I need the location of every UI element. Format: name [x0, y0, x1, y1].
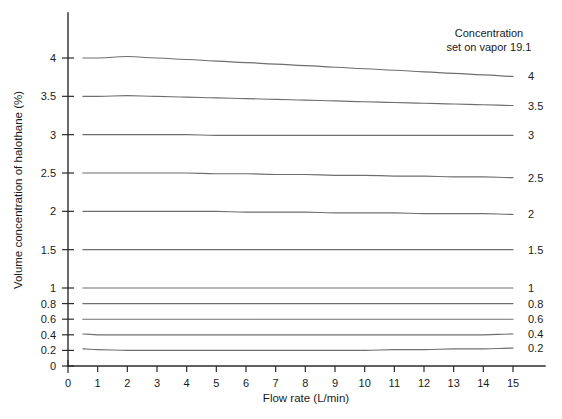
curve-label-0.2: 0.2 [528, 342, 543, 354]
curve-label-1.5: 1.5 [528, 244, 543, 256]
curve-3.5 [83, 96, 513, 106]
curve-3 [83, 135, 513, 136]
x-tick-label-3: 3 [154, 377, 160, 389]
x-tick-label-7: 7 [273, 377, 279, 389]
curve-2.5 [83, 173, 513, 178]
x-tick-label-1: 1 [95, 377, 101, 389]
y-tick-label-0.2: 0.2 [41, 344, 56, 356]
x-tick-label-12: 12 [418, 377, 430, 389]
curve-end-labels: 43.532.521.510.80.60.40.2 [528, 70, 543, 354]
y-tick-label-2.5: 2.5 [41, 167, 56, 179]
y-tick-label-4: 4 [50, 52, 56, 64]
x-tick-label-0: 0 [65, 377, 71, 389]
x-tick-label-13: 13 [448, 377, 460, 389]
y-axis-title: Volume concentration of halothane (%) [12, 91, 24, 289]
y-tick-label-3: 3 [50, 129, 56, 141]
y-tick-label-1: 1 [50, 282, 56, 294]
y-tick-label-0.8: 0.8 [41, 298, 56, 310]
concentration-note-line2: set on vapor 19.1 [446, 41, 531, 53]
x-axis-ticks: 0123456789101112131415 [65, 360, 519, 389]
x-tick-label-9: 9 [332, 377, 338, 389]
x-tick-label-8: 8 [302, 377, 308, 389]
x-tick-label-14: 14 [477, 377, 489, 389]
y-tick-label-0: 0 [50, 360, 56, 372]
curve-label-3.5: 3.5 [528, 100, 543, 112]
curve-label-3: 3 [528, 129, 534, 141]
curve-label-1: 1 [528, 282, 534, 294]
x-tick-label-15: 15 [507, 377, 519, 389]
curve-label-0.8: 0.8 [528, 298, 543, 310]
x-tick-label-4: 4 [184, 377, 190, 389]
halothane-concentration-chart: 00.20.40.60.811.522.533.54 0123456789101… [0, 0, 562, 419]
curve-2 [83, 211, 513, 214]
y-tick-label-2: 2 [50, 205, 56, 217]
x-tick-label-2: 2 [124, 377, 130, 389]
x-axis-title: Flow rate (L/min) [263, 392, 349, 404]
x-tick-label-10: 10 [359, 377, 371, 389]
x-tick-label-6: 6 [243, 377, 249, 389]
y-tick-label-0.4: 0.4 [41, 329, 56, 341]
y-tick-label-1.5: 1.5 [41, 244, 56, 256]
curve-label-4: 4 [528, 70, 534, 82]
x-tick-label-5: 5 [213, 377, 219, 389]
curve-label-2.5: 2.5 [528, 172, 543, 184]
curve-0.4 [83, 334, 513, 335]
y-tick-label-3.5: 3.5 [41, 90, 56, 102]
curve-4 [83, 56, 513, 76]
concentration-note-line1: Concentration [455, 27, 524, 39]
curve-label-0.6: 0.6 [528, 313, 543, 325]
curves-group [83, 56, 513, 350]
y-axis-ticks: 00.20.40.60.811.522.533.54 [41, 52, 74, 372]
curve-label-0.4: 0.4 [528, 328, 543, 340]
y-tick-label-0.6: 0.6 [41, 313, 56, 325]
x-tick-label-11: 11 [389, 377, 400, 389]
chart-svg: 00.20.40.60.811.522.533.54 0123456789101… [0, 0, 562, 419]
curve-label-2: 2 [528, 208, 534, 220]
curve-0.2 [83, 348, 513, 350]
